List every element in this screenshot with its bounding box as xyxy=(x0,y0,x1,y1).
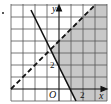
x-tick-label: 2 xyxy=(80,90,85,100)
x-axis-label: x xyxy=(98,90,104,101)
origin-label: O xyxy=(49,89,56,100)
y-axis-label: y xyxy=(51,3,57,14)
y-tick-label: 2 xyxy=(50,60,55,70)
inequality-graph: y x O 2 2 xyxy=(0,0,111,104)
